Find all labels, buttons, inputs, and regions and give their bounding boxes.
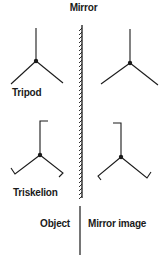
triskelion-object <box>11 121 63 177</box>
mirror <box>79 25 82 199</box>
triskelion-mirror-image <box>98 123 151 180</box>
tripod-label: Tripod <box>12 87 41 98</box>
triskelion-label: Triskelion <box>13 187 58 198</box>
tripod-object <box>11 28 63 84</box>
mirror-image-label: Mirror image <box>88 218 146 229</box>
tripod-mirror-image <box>101 29 158 85</box>
object-label: Object <box>40 218 70 229</box>
